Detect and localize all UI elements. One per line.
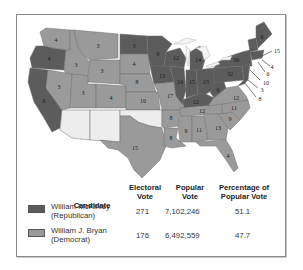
svg-text:6: 6 xyxy=(267,71,270,77)
swatch-democrat xyxy=(28,229,45,237)
svg-text:3: 3 xyxy=(97,43,100,49)
svg-text:8: 8 xyxy=(259,96,262,102)
svg-text:3: 3 xyxy=(75,62,78,68)
svg-text:14: 14 xyxy=(195,57,201,63)
svg-text:10: 10 xyxy=(140,98,146,104)
svg-text:12: 12 xyxy=(193,99,199,105)
svg-text:11: 11 xyxy=(196,127,202,133)
svg-text:36: 36 xyxy=(233,57,239,63)
svg-text:4: 4 xyxy=(110,95,113,101)
svg-text:12: 12 xyxy=(173,55,179,61)
electoral-mckinley: 271 xyxy=(136,208,149,217)
svg-text:9: 9 xyxy=(185,128,188,134)
header-popular-vote: Popular Vote xyxy=(170,184,210,201)
svg-text:8: 8 xyxy=(170,115,173,121)
percent-mckinley: 51.1 xyxy=(235,208,250,217)
svg-text:17: 17 xyxy=(167,93,173,99)
popular-mckinley: 7,102,246 xyxy=(165,208,200,217)
lake-michigan xyxy=(186,46,190,66)
svg-text:15: 15 xyxy=(274,48,280,54)
svg-text:12: 12 xyxy=(233,95,239,101)
svg-text:4: 4 xyxy=(133,61,136,67)
state-wy xyxy=(88,60,120,84)
svg-text:8: 8 xyxy=(136,79,139,85)
svg-text:3: 3 xyxy=(82,90,85,96)
territory-az xyxy=(60,110,90,140)
svg-text:3: 3 xyxy=(261,87,264,93)
svg-text:4: 4 xyxy=(48,56,51,62)
state-ma-ri-ct xyxy=(250,50,264,60)
svg-text:15: 15 xyxy=(132,145,138,151)
svg-text:8: 8 xyxy=(43,98,46,104)
svg-text:9: 9 xyxy=(157,51,160,57)
svg-text:13: 13 xyxy=(215,125,221,131)
svg-text:12: 12 xyxy=(199,108,205,114)
electoral-bryan: 176 xyxy=(136,232,149,241)
svg-text:9: 9 xyxy=(229,116,232,122)
svg-text:32: 32 xyxy=(227,71,233,77)
lake-superior xyxy=(174,38,196,44)
svg-text:23: 23 xyxy=(203,79,209,85)
candidate-bryan: William J. Bryan (Democrat) xyxy=(51,227,107,245)
svg-text:13: 13 xyxy=(159,73,165,79)
svg-text:11: 11 xyxy=(231,105,237,111)
candidate-mckinley: William McKinley (Republican) xyxy=(51,203,110,221)
svg-text:10: 10 xyxy=(263,80,269,86)
svg-text:3: 3 xyxy=(133,43,136,49)
swatch-republican xyxy=(28,205,45,213)
svg-text:8: 8 xyxy=(170,135,173,141)
lake-ontario xyxy=(222,56,232,60)
svg-text:3: 3 xyxy=(58,84,61,90)
popular-bryan: 6,492,559 xyxy=(165,232,200,241)
svg-text:4: 4 xyxy=(55,37,58,43)
svg-text:4: 4 xyxy=(271,64,274,70)
electoral-map: 4 4 8 3 3 3 3 3 4 3 4 8 10 15 9 13 17 8 … xyxy=(0,0,303,270)
svg-text:15: 15 xyxy=(189,79,195,85)
territory-nm xyxy=(90,110,120,142)
state-me xyxy=(256,22,272,48)
svg-text:24: 24 xyxy=(177,79,183,85)
header-electoral-vote: Electoral Vote xyxy=(124,184,166,201)
svg-text:3: 3 xyxy=(101,68,104,74)
svg-text:4: 4 xyxy=(227,153,230,159)
svg-text:6: 6 xyxy=(261,34,264,40)
state-fl xyxy=(196,140,238,172)
percent-bryan: 47.7 xyxy=(235,232,250,241)
svg-text:6: 6 xyxy=(217,87,220,93)
header-percentage: Percentage of Popular Vote xyxy=(212,184,276,201)
